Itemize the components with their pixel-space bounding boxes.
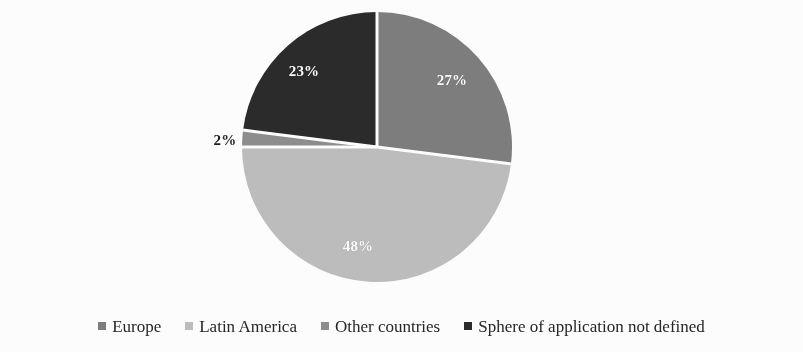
pie-chart-figure: 27% 48% 2% 23% Europe Latin America Othe…	[0, 0, 803, 352]
legend-swatch-icon	[185, 322, 193, 330]
legend-item-europe[interactable]: Europe	[98, 318, 161, 335]
pie-plot-area: 27% 48% 2% 23%	[0, 0, 803, 300]
legend-item-latin-america[interactable]: Latin America	[185, 318, 297, 335]
legend-swatch-icon	[321, 322, 329, 330]
legend-item-label: Other countries	[335, 318, 440, 335]
legend-item-label: Sphere of application not defined	[478, 318, 705, 335]
legend-item-sphere-not-defined[interactable]: Sphere of application not defined	[464, 318, 705, 335]
pie-slice[interactable]	[377, 12, 512, 164]
pie-slice[interactable]	[243, 12, 377, 147]
legend-swatch-icon	[98, 322, 106, 330]
legend-item-label: Latin America	[199, 318, 297, 335]
legend-swatch-icon	[464, 322, 472, 330]
chart-legend: Europe Latin America Other countries Sph…	[0, 300, 803, 352]
pie-slice[interactable]	[242, 147, 511, 282]
pie-chart-svg	[0, 0, 803, 300]
legend-item-other-countries[interactable]: Other countries	[321, 318, 440, 335]
legend-item-label: Europe	[112, 318, 161, 335]
